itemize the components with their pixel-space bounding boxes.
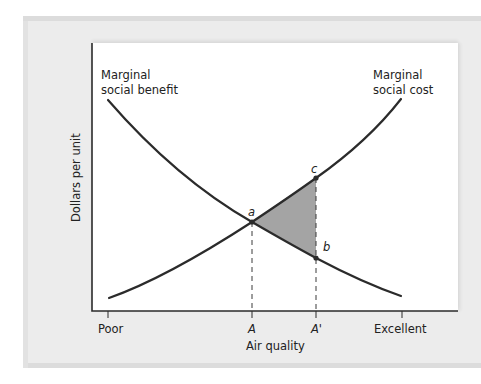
msc-label-line2: social cost	[373, 83, 434, 97]
point-b	[313, 255, 318, 260]
msb-label-line2: social benefit	[101, 83, 178, 97]
point-label-c: c	[311, 162, 318, 176]
point-label-b: b	[323, 240, 330, 254]
tick-label-a: A	[247, 322, 256, 336]
point-a	[249, 219, 254, 224]
figure: a b c Marginal social benefit Marginal s…	[0, 0, 481, 384]
marginal-social-cost-curve	[109, 99, 401, 298]
msc-label-line1: Marginal	[373, 68, 423, 82]
marginal-social-benefit-curve	[108, 100, 401, 296]
tick-label-excellent: Excellent	[374, 322, 427, 336]
msb-label-line1: Marginal	[101, 68, 151, 82]
x-axis-title: Air quality	[246, 339, 305, 353]
tick-label-a-prime: A'	[310, 322, 322, 336]
point-c	[313, 175, 318, 180]
chart: a b c Marginal social benefit Marginal s…	[0, 0, 481, 384]
point-label-a: a	[248, 205, 255, 219]
deadweight-loss-area	[252, 178, 316, 258]
y-axis-title: Dollars per unit	[69, 133, 83, 222]
tick-label-poor: Poor	[98, 322, 124, 336]
